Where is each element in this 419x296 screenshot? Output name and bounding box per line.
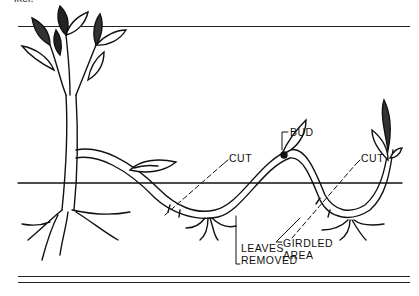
girdled-area-line2: AREA — [283, 249, 333, 261]
girdled-area-line1: GIRDLED — [283, 237, 333, 249]
cut-label-left: CUT — [229, 152, 252, 164]
girdled-area-label: GIRDLED AREA — [283, 237, 333, 261]
cut-label-right: CUT — [361, 152, 384, 164]
bottom-rule-1 — [18, 276, 410, 277]
parent-leaves — [22, 6, 126, 80]
bottom-rule-2 — [18, 282, 410, 283]
bud-label: BUD — [290, 126, 314, 138]
serpentine-layering-illustration — [0, 0, 419, 296]
